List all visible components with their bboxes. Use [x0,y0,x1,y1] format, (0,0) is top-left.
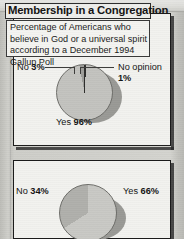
membership-label-no: No 34% [16,186,49,197]
membership-label-yes: Yes 66% [123,186,159,197]
membership-panel-title: Membership in a Congregation [8,4,168,17]
belief-pie-body [56,64,113,121]
belief-label-no-text: No [17,62,31,72]
belief-leader-line-no-horizontal [45,67,75,68]
belief-leader-line-noopinion-vertical [80,67,81,74]
belief-panel-shadow-bottom [16,147,174,150]
belief-label-yes-value: 96% [74,117,92,127]
belief-label-yes: Yes 96% [56,117,92,128]
membership-label-no-value: 34% [30,186,48,196]
belief-leader-line-noopinion-horizontal [80,67,114,68]
belief-label-yes-text: Yes [56,117,74,127]
membership-label-no-text: No [16,186,30,196]
belief-label-no: No 3% [17,62,45,73]
membership-panel-shadow-right [171,163,174,239]
belief-panel-shadow-right [171,16,174,150]
membership-label-yes-value: 66% [141,186,159,196]
belief-label-no-opinion-value: 1% [118,73,131,83]
membership-pie-body [59,184,117,239]
belief-label-no-opinion: No opinion 1% [118,62,166,84]
belief-leader-line-no-vertical [74,67,75,74]
membership-label-yes-text: Yes [123,186,141,196]
membership-pie-chart [55,182,133,239]
belief-label-no-value: 3% [31,62,44,72]
belief-label-no-opinion-text: No opinion [118,62,162,72]
